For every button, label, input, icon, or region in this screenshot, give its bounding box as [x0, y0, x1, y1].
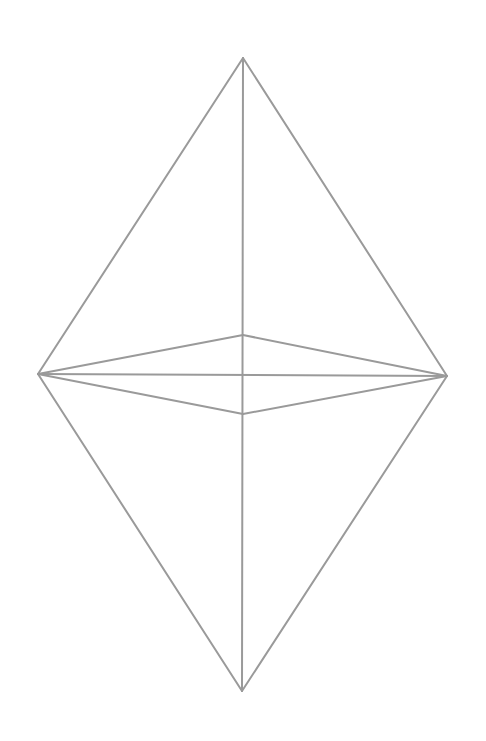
edge-left-front	[38, 374, 243, 414]
edge-back-right	[243, 335, 447, 376]
edge-bottom-right	[242, 376, 447, 691]
edge-left-back	[38, 335, 243, 374]
edge-horizontal-axis	[38, 374, 447, 376]
edge-top-right	[243, 58, 447, 376]
edge-bottom-left	[38, 374, 242, 691]
edge-front-right	[243, 376, 447, 414]
octahedron-diagram	[0, 0, 486, 741]
edge-top-left	[38, 58, 243, 374]
